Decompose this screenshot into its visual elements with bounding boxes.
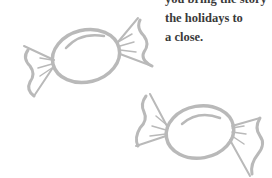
body-text: you bring the story the holidays to a cl… <box>165 0 272 47</box>
text-line-2: the holidays to <box>165 9 272 28</box>
text-line-1: you bring the story <box>165 0 272 9</box>
candy-icon <box>132 78 272 178</box>
text-line-3: a close. <box>165 28 272 47</box>
